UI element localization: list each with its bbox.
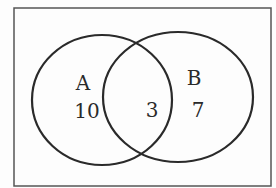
set-a-label: A bbox=[75, 71, 91, 95]
intersection-count: 3 bbox=[146, 98, 159, 122]
set-b-only-count: 7 bbox=[192, 98, 205, 122]
set-b-label: B bbox=[187, 66, 202, 90]
set-b-circle bbox=[103, 32, 253, 162]
set-a-only-count: 10 bbox=[74, 99, 99, 123]
venn-diagram: A 10 3 B 7 bbox=[0, 0, 276, 188]
universe-rectangle bbox=[14, 8, 271, 186]
